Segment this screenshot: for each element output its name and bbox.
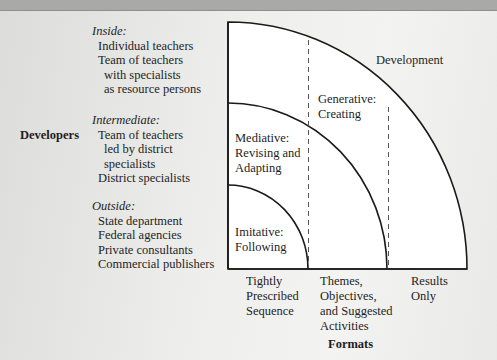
- group-item: Private consultants: [92, 243, 214, 258]
- format-label-line: and Suggested: [320, 304, 393, 319]
- format-label-line: Sequence: [246, 304, 299, 319]
- group-item: Team of teachers: [92, 53, 201, 68]
- zone-label-line: Revising and: [235, 146, 301, 161]
- zone-label-line: Adapting: [235, 161, 301, 176]
- group-item: led by district: [92, 142, 190, 157]
- zone-label-line: Creating: [318, 107, 376, 122]
- group-item: Federal agencies: [92, 228, 214, 243]
- developer-group-inside: Inside: Individual teachers Team of teac…: [92, 24, 201, 97]
- group-item: with specialists: [92, 68, 201, 83]
- developer-group-intermediate: Intermediate: Team of teachers led by di…: [92, 113, 190, 186]
- zone-label-imitative: Imitative: Following: [235, 225, 286, 255]
- format-label-themes: Themes, Objectives, and Suggested Activi…: [320, 274, 393, 334]
- group-item: as resource persons: [92, 82, 201, 97]
- developers-axis-label: Developers: [20, 128, 79, 143]
- group-heading: Intermediate:: [92, 113, 190, 128]
- group-item: District specialists: [92, 171, 190, 186]
- group-item: Team of teachers: [92, 128, 190, 143]
- zone-label-mediative: Mediative: Revising and Adapting: [235, 131, 301, 176]
- format-label-tightly-prescribed: Tightly Prescribed Sequence: [246, 274, 299, 319]
- format-label-line: Results: [411, 274, 448, 289]
- group-heading: Outside:: [92, 199, 214, 214]
- zone-label-line: Following: [235, 240, 286, 255]
- zone-label-line: Mediative:: [235, 131, 301, 146]
- format-label-line: Only: [411, 289, 448, 304]
- group-item: State department: [92, 214, 214, 229]
- format-label-results-only: Results Only: [411, 274, 448, 304]
- group-item: specialists: [92, 157, 190, 172]
- zone-label-line: Imitative:: [235, 225, 286, 240]
- format-label-line: Objectives,: [320, 289, 393, 304]
- zone-label-generative: Generative: Creating: [318, 92, 376, 122]
- format-label-line: Activities: [320, 319, 393, 334]
- developer-group-outside: Outside: State department Federal agenci…: [92, 199, 214, 272]
- group-item: Individual teachers: [92, 39, 201, 54]
- group-item: Commercial publishers: [92, 257, 214, 272]
- format-label-line: Tightly: [246, 274, 299, 289]
- zone-label-development: Development: [376, 53, 443, 68]
- zone-label-line: Generative:: [318, 92, 376, 107]
- format-label-line: Themes,: [320, 274, 393, 289]
- group-heading: Inside:: [92, 24, 201, 39]
- format-label-line: Prescribed: [246, 289, 299, 304]
- formats-axis-label: Formats: [328, 337, 373, 352]
